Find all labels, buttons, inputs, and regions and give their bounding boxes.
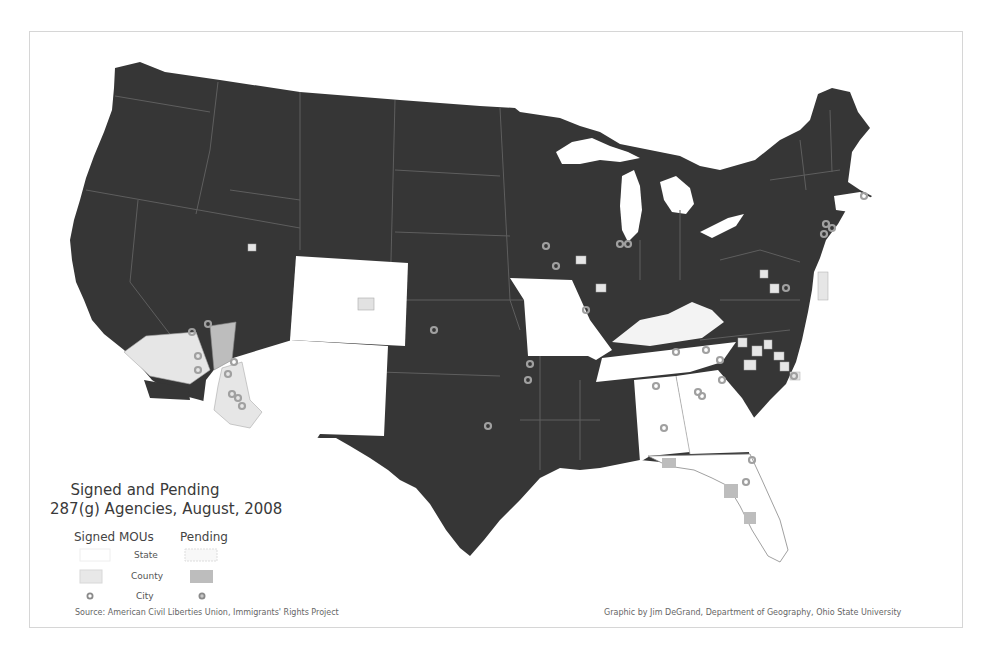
legend-pending-state-swatch xyxy=(185,549,217,561)
map-title-line1: Signed and Pending xyxy=(50,481,240,500)
source-credit: Source: American Civil Liberties Union, … xyxy=(75,608,339,617)
legend-pending-header: Pending xyxy=(180,530,228,544)
legend-signed-city-marker xyxy=(87,593,92,598)
legend-signed-header: Signed MOUs xyxy=(74,530,154,544)
state-new-mexico xyxy=(290,340,388,440)
state-florida xyxy=(648,454,788,562)
legend-pending-county-swatch xyxy=(190,570,213,583)
map-title-line2: 287(g) Agencies, August, 2008 xyxy=(50,500,240,519)
legend-label-state: State xyxy=(134,550,158,560)
legend-signed-county-swatch xyxy=(80,570,102,583)
legend-label-city: City xyxy=(136,591,154,601)
legend-label-county: County xyxy=(131,571,163,581)
legend-signed-state-swatch xyxy=(80,549,110,561)
state-colorado xyxy=(290,256,408,346)
graphic-credit: Graphic by Jim DeGrand, Department of Ge… xyxy=(604,608,901,617)
map-title: Signed and Pending 287(g) Agencies, Augu… xyxy=(50,481,240,519)
legend-pending-city-marker xyxy=(199,593,204,598)
